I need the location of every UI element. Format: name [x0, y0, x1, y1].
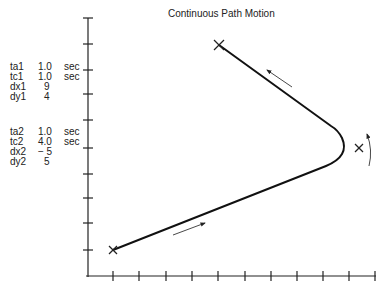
end-point-marker-icon [214, 40, 224, 50]
curve-direction-arrow-icon [367, 134, 371, 166]
via-point-marker-icon [355, 144, 363, 152]
y-axis [83, 18, 93, 277]
return-arrow-icon [267, 70, 292, 87]
x-axis [86, 271, 376, 281]
path-motion-diagram [0, 0, 389, 295]
motion-path [113, 45, 344, 250]
start-point-marker-icon [109, 246, 117, 254]
